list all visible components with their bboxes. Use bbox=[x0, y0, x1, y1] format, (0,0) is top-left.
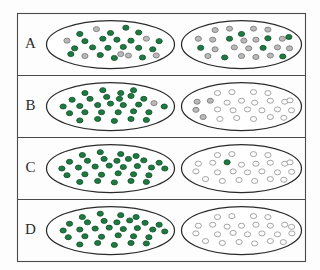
dot-gray bbox=[226, 26, 232, 31]
panel-label-d: D bbox=[25, 221, 36, 237]
dot-gray bbox=[253, 37, 259, 42]
dot-green bbox=[72, 46, 78, 51]
dot-white bbox=[267, 98, 273, 103]
dot-green bbox=[101, 218, 107, 223]
dot-green bbox=[79, 153, 85, 158]
dot-green bbox=[64, 173, 70, 178]
dot-green bbox=[162, 166, 168, 171]
dot-green bbox=[100, 36, 106, 41]
dot-gray bbox=[207, 98, 213, 103]
dot-green bbox=[98, 172, 104, 177]
dot-green bbox=[128, 93, 134, 98]
dot-green bbox=[141, 96, 147, 101]
dot-white bbox=[195, 223, 201, 228]
dot-green bbox=[68, 52, 74, 57]
dot-green bbox=[111, 118, 117, 123]
dot-green bbox=[98, 234, 104, 239]
dot-green bbox=[120, 165, 126, 170]
dot-white bbox=[234, 116, 240, 121]
dot-green bbox=[82, 39, 88, 44]
dot-gray bbox=[195, 36, 201, 41]
dot-gray bbox=[194, 99, 200, 104]
figure-container: ABCD bbox=[0, 0, 320, 270]
dot-green bbox=[156, 160, 162, 165]
dot-green bbox=[65, 235, 71, 240]
dot-green bbox=[280, 54, 286, 59]
dot-green bbox=[111, 55, 117, 60]
dot-gray bbox=[125, 53, 131, 58]
dot-green bbox=[146, 173, 152, 178]
dot-white bbox=[288, 224, 294, 229]
dot-gray bbox=[82, 54, 88, 59]
dot-green bbox=[134, 226, 140, 231]
dot-white bbox=[287, 98, 293, 103]
dot-green bbox=[98, 110, 104, 115]
dot-green bbox=[87, 96, 93, 101]
dot-green bbox=[130, 172, 136, 177]
dot-white bbox=[250, 214, 256, 219]
dot-gray bbox=[118, 52, 124, 57]
dot-green bbox=[111, 242, 117, 247]
dot-green bbox=[101, 156, 107, 161]
dot-green bbox=[95, 240, 101, 245]
dot-white bbox=[230, 169, 236, 174]
dot-green bbox=[114, 220, 120, 225]
dot-green bbox=[92, 164, 98, 169]
dot-green bbox=[120, 227, 126, 232]
panel-c-left-outline bbox=[47, 145, 175, 193]
dot-green bbox=[136, 30, 142, 35]
dot-white bbox=[267, 223, 273, 228]
dot-green bbox=[66, 159, 72, 164]
dot-green bbox=[130, 88, 136, 93]
dot-white bbox=[252, 241, 258, 246]
dot-green bbox=[161, 104, 167, 109]
dot-gray bbox=[143, 36, 149, 41]
dot-white bbox=[274, 170, 280, 175]
dot-green bbox=[77, 179, 83, 184]
dot-white bbox=[267, 177, 273, 182]
panel-d-right-outline bbox=[182, 207, 302, 255]
panel-c-right bbox=[182, 145, 302, 193]
dot-white bbox=[265, 91, 271, 96]
dot-white bbox=[289, 169, 295, 174]
dot-green bbox=[84, 220, 90, 225]
panel-a-left-outline bbox=[47, 21, 175, 69]
dot-gray bbox=[205, 54, 211, 59]
dot-gray bbox=[151, 101, 157, 106]
dot-green bbox=[130, 109, 136, 114]
dot-white bbox=[236, 178, 242, 183]
dot-white bbox=[214, 215, 220, 220]
dot-gray bbox=[246, 46, 252, 51]
dot-green bbox=[82, 172, 88, 177]
dot-white bbox=[214, 232, 220, 237]
dot-white bbox=[250, 116, 256, 121]
dot-green bbox=[77, 118, 83, 123]
dot-green bbox=[146, 235, 152, 240]
dot-green bbox=[143, 179, 149, 184]
dot-green bbox=[66, 111, 72, 116]
dot-green bbox=[115, 171, 121, 176]
dot-green bbox=[146, 110, 152, 115]
dot-green bbox=[89, 45, 95, 50]
dot-white bbox=[217, 116, 223, 121]
dot-gray bbox=[193, 107, 199, 112]
dot-gray bbox=[253, 54, 259, 59]
dot-white bbox=[224, 100, 230, 105]
dot-green bbox=[107, 30, 113, 35]
dot-green bbox=[123, 25, 129, 30]
dot-green bbox=[97, 150, 103, 155]
dot-green bbox=[148, 165, 154, 170]
dot-white bbox=[238, 98, 244, 103]
panel-c-right-outline bbox=[182, 145, 302, 193]
dot-green bbox=[114, 158, 120, 163]
dot-white bbox=[259, 169, 265, 174]
dot-white bbox=[265, 153, 271, 158]
dot-green bbox=[125, 156, 131, 161]
dot-white bbox=[281, 177, 287, 182]
dot-green bbox=[222, 55, 228, 60]
dot-white bbox=[229, 214, 235, 219]
dot-green bbox=[60, 228, 66, 233]
dot-green bbox=[143, 241, 149, 246]
dot-green bbox=[82, 110, 88, 115]
panel-d-right bbox=[182, 207, 302, 255]
